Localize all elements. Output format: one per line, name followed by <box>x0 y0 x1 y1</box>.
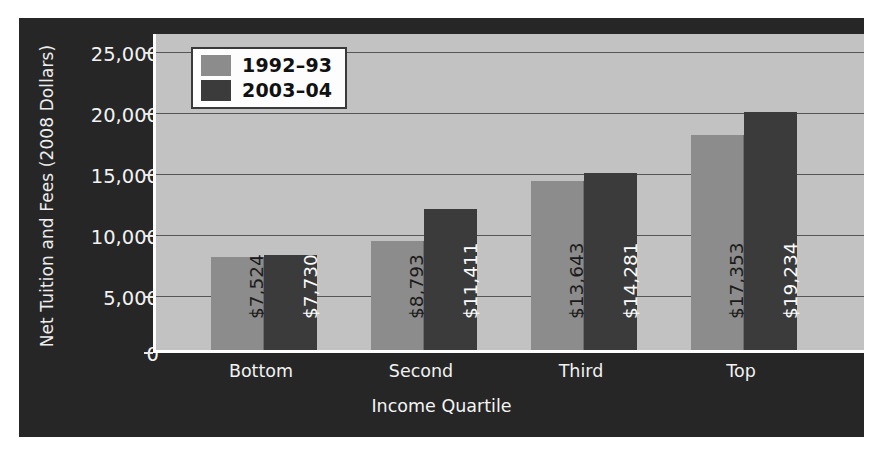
bar-value-label: $11,411 <box>460 242 481 319</box>
y-tick-label-15000: 15,000 <box>39 165 159 188</box>
y-tick-mark-15000 <box>144 174 153 176</box>
y-axis-title: Net Tuition and Fees (2008 Dollars) <box>37 31 57 361</box>
bar-second-2003-04[interactable]: $11,411 <box>424 209 477 350</box>
x-tick-label-top: Top <box>726 361 756 381</box>
legend-label: 2003–04 <box>242 79 332 101</box>
bar-bottom-2003-04[interactable]: $7,730 <box>264 255 317 350</box>
bar-value-label: $7,730 <box>300 254 321 319</box>
series-0-swatch-icon <box>201 55 231 76</box>
y-tick-label-20000: 20,000 <box>39 104 159 127</box>
y-tick-label-0: 0 <box>39 343 159 366</box>
x-tick-label-second: Second <box>389 361 453 381</box>
x-tick-label-bottom: Bottom <box>229 361 293 381</box>
bar-third-2003-04[interactable]: $14,281 <box>584 173 637 350</box>
bar-value-label: $14,281 <box>620 242 641 319</box>
legend-label: 1992–93 <box>242 54 332 76</box>
legend-item-1992-93[interactable]: 1992–93 <box>201 54 332 76</box>
y-tick-mark-0 <box>144 352 153 354</box>
bar-top-2003-04[interactable]: $19,234 <box>744 112 797 350</box>
legend-item-2003-04[interactable]: 2003–04 <box>201 79 332 101</box>
y-tick-label-5000: 5,000 <box>39 287 159 310</box>
chart-legend: 1992–93 2003–04 <box>191 47 347 109</box>
x-tick-label-third: Third <box>559 361 604 381</box>
y-tick-mark-25000 <box>144 52 153 54</box>
series-1-swatch-icon <box>201 80 231 101</box>
x-axis-title: Income Quartile <box>19 396 864 416</box>
y-tick-mark-20000 <box>144 113 153 115</box>
y-tick-label-10000: 10,000 <box>39 226 159 249</box>
bar-value-label: $19,234 <box>780 242 801 319</box>
y-tick-mark-10000 <box>144 235 153 237</box>
bar-bottom-1992-93[interactable]: $7,524 <box>211 257 264 350</box>
bar-third-1992-93[interactable]: $13,643 <box>531 181 584 350</box>
chart-figure: Net Tuition and Fees (2008 Dollars) 25,0… <box>19 18 864 437</box>
y-tick-mark-5000 <box>144 296 153 298</box>
bar-top-1992-93[interactable]: $17,353 <box>691 135 744 350</box>
bar-second-1992-93[interactable]: $8,793 <box>371 241 424 350</box>
y-tick-label-25000: 25,000 <box>39 43 159 66</box>
